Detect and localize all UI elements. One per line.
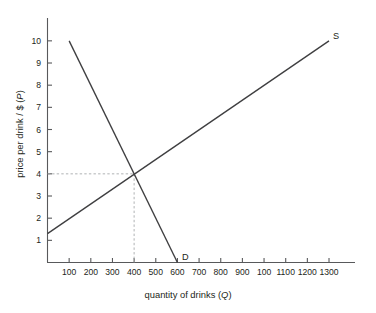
y-axis-title-tail: ) (14, 90, 25, 93)
x-tick-label: 200 (84, 267, 99, 277)
curve-d (69, 41, 177, 263)
y-tick-label: 8 (36, 80, 41, 90)
x-tick-label: 100 (62, 267, 77, 277)
x-tick-label: 800 (214, 267, 229, 277)
y-tick-label: 3 (36, 191, 41, 201)
y-axis-title-text: price per drink / $ ( (14, 100, 25, 178)
curve-label-d: D (182, 252, 189, 262)
x-axis-title: quantity of drinks (Q) (0, 289, 376, 300)
curves (48, 41, 330, 263)
y-tick-label: 7 (36, 102, 41, 112)
x-axis-title-tail: ) (228, 289, 231, 300)
x-tick-label: 100 (257, 267, 272, 277)
x-tick-label: 700 (192, 267, 207, 277)
x-axis-title-text: quantity of drinks ( (144, 289, 221, 300)
y-tick-label: 6 (36, 125, 41, 135)
y-axis-title-variable: P (14, 93, 25, 99)
x-tick-label: 1300 (319, 267, 338, 277)
curve-label-s: S (333, 31, 339, 41)
x-tick-label: 300 (105, 267, 120, 277)
x-tick-label: 500 (149, 267, 164, 277)
curve-s (48, 41, 330, 234)
y-axis-title: price per drink / $ (P) (14, 14, 25, 254)
x-tick-label: 900 (235, 267, 250, 277)
x-tick-label: 1100 (276, 267, 295, 277)
x-tick-label: 1200 (298, 267, 317, 277)
x-tick-label: 400 (127, 267, 142, 277)
y-tick-label: 5 (36, 147, 41, 157)
y-tick-label: 1 (36, 235, 41, 245)
y-tick-label: 4 (36, 169, 41, 179)
supply-demand-chart: 1002003004005006007008009001001100120013… (0, 0, 376, 313)
y-tick-label: 2 (36, 213, 41, 223)
equilibrium-guides (48, 174, 135, 263)
curve-labels: DS (182, 31, 339, 262)
x-tick-label: 600 (170, 267, 185, 277)
y-tick-label: 9 (36, 58, 41, 68)
chart-plot-area: 1002003004005006007008009001001100120013… (0, 0, 376, 313)
y-axis-ticks: 12345678910 (31, 36, 52, 245)
x-axis-ticks: 1002003004005006007008009001001100120013… (62, 258, 339, 277)
y-tick-label: 10 (31, 36, 41, 46)
